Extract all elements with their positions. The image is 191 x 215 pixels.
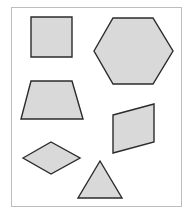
square-shape [31, 17, 72, 57]
parallelogram-shape [113, 104, 154, 153]
rhombus-shape [23, 142, 80, 174]
shapes-canvas [0, 0, 191, 215]
hexagon-shape [94, 18, 173, 84]
triangle-shape [78, 161, 122, 198]
trapezoid-shape [21, 81, 83, 119]
